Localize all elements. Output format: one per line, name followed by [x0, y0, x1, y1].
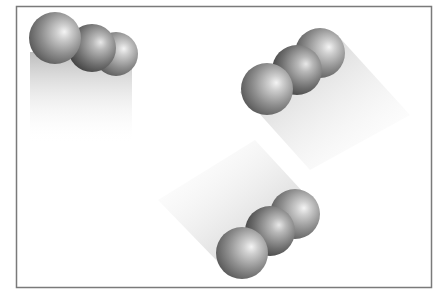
sphere [29, 12, 81, 64]
sphere [241, 63, 293, 115]
sphere-diagram [0, 0, 441, 298]
sphere [216, 227, 268, 279]
